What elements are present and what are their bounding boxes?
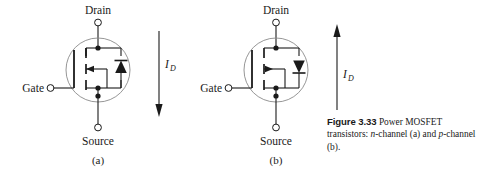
current-arrow-head-b (333, 24, 340, 37)
channel-arrow-b (265, 66, 273, 72)
figure-number: Figure 3.33 (327, 116, 377, 127)
figure-caption: Figure 3.33 Power MOSFET transistors: n-… (327, 116, 482, 153)
drain-label-a: Drain (85, 4, 111, 16)
source-label-a: Source (82, 135, 114, 147)
caption-text-2: transistors: (327, 129, 371, 139)
circuit-diagram-n-channel: Drain Gate (0, 0, 200, 174)
source-terminal-a (95, 124, 102, 131)
current-arrow-head-a (155, 104, 162, 117)
current-subscript-b: D (347, 74, 354, 83)
gate-terminal-a (47, 85, 54, 92)
drain-terminal-a (95, 19, 102, 26)
caption-text-3: -channel (a) and (375, 129, 436, 139)
figure-power-mosfet: Drain Gate (0, 0, 490, 174)
gate-label-a: Gate (22, 82, 44, 94)
source-label-b: Source (260, 135, 292, 147)
drain-label-b: Drain (263, 4, 289, 16)
source-terminal-b (273, 124, 280, 131)
drain-terminal-b (273, 19, 280, 26)
diode-triangle-a (115, 61, 127, 74)
caption-text-1: Power MOSFET (379, 117, 442, 127)
subfigure-label-a: (a) (92, 154, 105, 167)
current-subscript-a: D (169, 64, 176, 73)
subfigure-label-b: (b) (270, 154, 283, 167)
gate-terminal-b (225, 85, 232, 92)
diode-triangle-b (293, 61, 305, 74)
gate-label-b: Gate (200, 82, 222, 94)
channel-arrow-a (86, 66, 94, 72)
